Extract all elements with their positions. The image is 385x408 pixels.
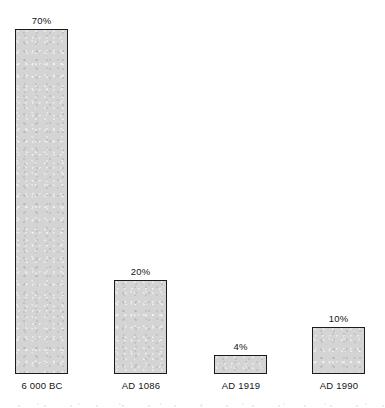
bar-rect[interactable]	[15, 29, 68, 374]
bar-chart-figure: 70% 20% 4% 10% 6 000 BC AD 1086 AD 1919 …	[0, 0, 385, 408]
category-label-1: AD 1086	[86, 380, 196, 392]
category-label-3: AD 1990	[284, 380, 385, 392]
bar-value-label: 4%	[233, 341, 247, 352]
bar-rect[interactable]	[114, 280, 167, 374]
chart-plot-area: 70% 20% 4% 10%	[0, 0, 385, 374]
bar-value-label: 70%	[32, 15, 52, 26]
bar-group[interactable]: 10%	[312, 327, 365, 374]
bar-group[interactable]: 20%	[114, 280, 167, 374]
bar-value-label: 20%	[131, 266, 151, 277]
scan-edge-artifact	[0, 401, 385, 408]
category-label-0: 6 000 BC	[0, 380, 97, 392]
bar-group[interactable]: 4%	[214, 355, 267, 374]
bar-rect[interactable]	[214, 355, 267, 374]
bar-group[interactable]: 70%	[15, 29, 68, 374]
bar-value-label: 10%	[329, 313, 349, 324]
category-label-2: AD 1919	[186, 380, 296, 392]
bar-rect[interactable]	[312, 327, 365, 374]
